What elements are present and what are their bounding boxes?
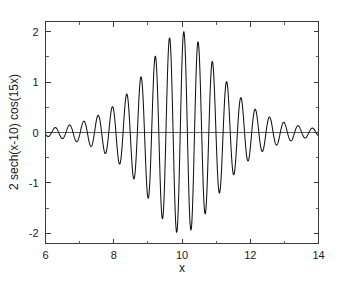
x-axis-title: x (179, 261, 185, 275)
x-tick-label: 6 (42, 249, 48, 261)
figure-background (0, 0, 345, 295)
y-tick-label: 2 (32, 26, 38, 38)
y-tick-label: -1 (29, 177, 39, 189)
x-tick-label: 10 (176, 249, 188, 261)
y-tick-label: -2 (29, 227, 39, 239)
x-tick-label: 12 (244, 249, 256, 261)
y-tick-label: 0 (32, 127, 38, 139)
figure-container: 68101214-2-1012 x 2 sech(x-10) cos(15x) (0, 0, 345, 295)
chart-canvas: 68101214-2-1012 x 2 sech(x-10) cos(15x) (0, 0, 345, 295)
y-axis-title: 2 sech(x-10) cos(15x) (7, 74, 21, 190)
figure-caption (6, 284, 336, 293)
x-tick-label: 14 (312, 249, 324, 261)
x-tick-label: 8 (111, 249, 117, 261)
y-tick-label: 1 (32, 76, 38, 88)
